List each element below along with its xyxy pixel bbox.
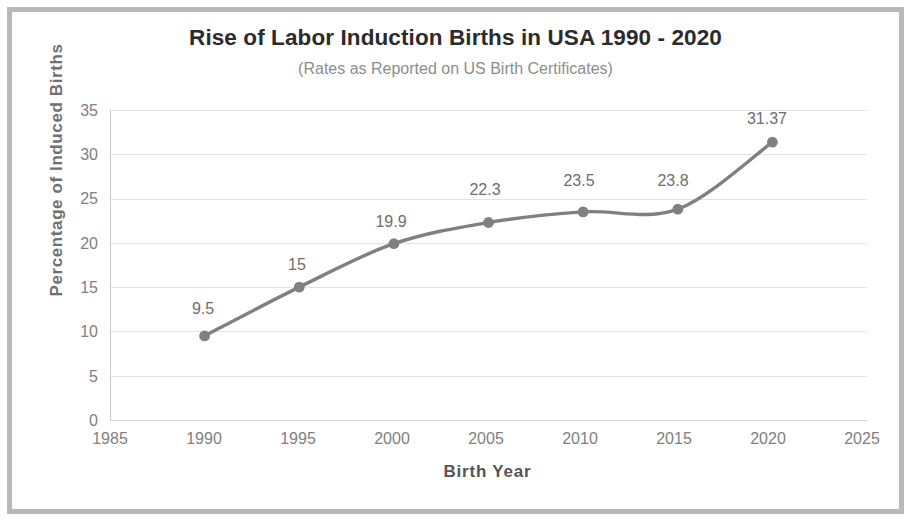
y-tick-0: 0 (38, 412, 98, 430)
point-label-2010: 23.5 (534, 172, 624, 190)
y-tick-25: 25 (38, 190, 98, 208)
point-label-2000: 19.9 (346, 213, 436, 231)
y-tick-10: 10 (38, 323, 98, 341)
plot-left-axis-line (110, 110, 111, 421)
x-tick-2015: 2015 (634, 430, 714, 448)
point-label-1995: 15 (252, 256, 342, 274)
x-tick-2010: 2010 (540, 430, 620, 448)
point-label-2020: 31.37 (722, 110, 812, 128)
gridline-30 (110, 154, 867, 155)
gridline-15 (110, 287, 867, 288)
gridline-0-baseline (110, 420, 867, 421)
chart-page: Rise of Labor Induction Births in USA 19… (0, 0, 911, 521)
x-tick-1995: 1995 (258, 430, 338, 448)
x-tick-2020: 2020 (728, 430, 808, 448)
x-tick-2005: 2005 (446, 430, 526, 448)
x-tick-1985: 1985 (70, 430, 150, 448)
y-tick-20: 20 (38, 235, 98, 253)
y-tick-35: 35 (38, 102, 98, 120)
chart-title: Rise of Labor Induction Births in USA 19… (0, 25, 911, 51)
point-label-2015: 23.8 (628, 172, 718, 190)
point-label-1990: 9.5 (158, 300, 248, 318)
gridline-5 (110, 376, 867, 377)
chart-subtitle: (Rates as Reported on US Birth Certifica… (0, 60, 911, 78)
y-tick-15: 15 (38, 279, 98, 297)
x-tick-1990: 1990 (164, 430, 244, 448)
plot-area (110, 110, 867, 420)
gridline-10 (110, 331, 867, 332)
x-tick-2025: 2025 (822, 430, 902, 448)
y-tick-5: 5 (38, 368, 98, 386)
y-tick-30: 30 (38, 146, 98, 164)
x-axis-title: Birth Year (110, 462, 865, 482)
gridline-20 (110, 243, 867, 244)
point-label-2005: 22.3 (440, 181, 530, 199)
x-tick-2000: 2000 (352, 430, 432, 448)
